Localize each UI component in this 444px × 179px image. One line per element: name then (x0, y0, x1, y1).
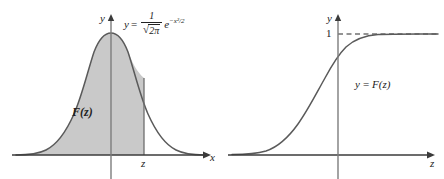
asymptote-tick-label: 1 (326, 28, 332, 39)
shaded-region-label: F(z) (72, 106, 93, 118)
cdf-panel: y z 1 y=F(z) (222, 0, 444, 179)
y-axis-arrowhead (335, 14, 341, 21)
formula-radicand: 2π (148, 24, 160, 36)
cdf-curve (232, 34, 438, 155)
formula-lhs: y (124, 18, 129, 30)
formula-sqrt: √ 2π (143, 24, 160, 36)
formula-exponent: −x²/2 (169, 17, 184, 25)
cdf-z-axis-label: z (430, 158, 434, 169)
formula-exponential: e−x²/2 (164, 18, 184, 30)
density-panel: y x z F(z) y = 1 √ 2π e−x²/2 (0, 0, 222, 179)
z-tick-label: z (141, 158, 145, 169)
cdf-label-rhs: F(z) (372, 78, 390, 90)
cdf-curve-label: y=F(z) (355, 79, 390, 90)
formula-fraction: 1 √ 2π (141, 11, 162, 36)
formula-numerator: 1 (147, 11, 156, 22)
cdf-plot-svg (222, 0, 444, 179)
formula-denominator: √ 2π (141, 23, 162, 36)
density-plot-svg (0, 0, 222, 179)
cdf-label-equals: = (363, 78, 369, 90)
cdf-label-lhs: y (355, 78, 360, 90)
density-y-axis-label: y (100, 13, 105, 24)
figure-container: y x z F(z) y = 1 √ 2π e−x²/2 (0, 0, 444, 179)
density-formula: y = 1 √ 2π e−x²/2 (124, 11, 184, 36)
density-x-axis-label: x (210, 152, 215, 163)
formula-equals: = (131, 18, 137, 30)
cdf-y-axis-label: y (327, 13, 332, 24)
y-axis-arrowhead (108, 14, 114, 21)
